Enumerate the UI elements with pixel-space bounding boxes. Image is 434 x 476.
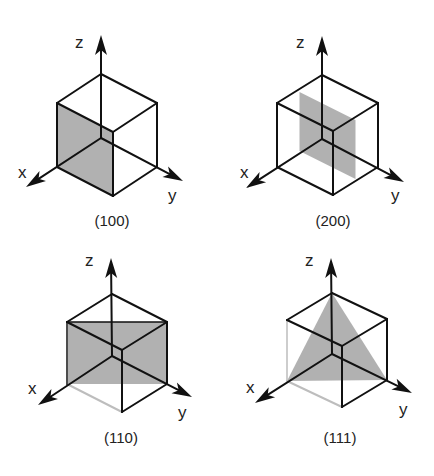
diagram-canvas: xyz(100)xyz(200)xyz(110)xyz(111) (0, 0, 434, 476)
x-axis-arrowhead-icon (38, 389, 58, 405)
y-axis-label: y (178, 403, 187, 422)
panel-caption: (110) (104, 429, 138, 446)
panel-110: xyz(110) (28, 251, 192, 446)
x-axis-label: x (240, 163, 249, 182)
x-axis-label: x (18, 163, 27, 182)
x-axis-arrowhead-icon (246, 172, 266, 188)
cube-edge (287, 381, 342, 407)
cube-edge (57, 74, 101, 103)
z-axis-line (331, 273, 332, 354)
z-axis-label: z (85, 251, 94, 270)
miller-plane-111 (287, 293, 387, 381)
x-axis-arrowhead-icon (255, 387, 275, 403)
panel-111: xyz(111) (246, 251, 412, 446)
y-axis-label: y (168, 186, 177, 205)
cube-edge (122, 384, 167, 412)
panel-caption: (200) (315, 212, 350, 229)
cube-edge (277, 167, 333, 195)
cube-edge (113, 167, 157, 196)
panel-200: xyz(200) (240, 33, 404, 229)
cube-edge (67, 294, 112, 322)
cube-edge (342, 380, 387, 407)
panel-100: xyz(100) (18, 33, 183, 229)
cube-edge (112, 294, 167, 322)
y-axis-arrowhead-icon (391, 379, 412, 393)
y-axis-label: y (391, 186, 400, 205)
y-axis-arrowhead-icon (163, 166, 184, 181)
y-axis-arrowhead-icon (172, 383, 193, 398)
cube-edge (67, 384, 122, 412)
x-axis-label: x (28, 379, 37, 398)
z-axis-label: z (296, 33, 305, 52)
z-axis-label: z (305, 251, 314, 270)
panel-caption: (111) (324, 429, 357, 446)
cube-edge (101, 74, 157, 103)
panel-caption: (100) (94, 212, 129, 229)
cube-edge (113, 103, 157, 132)
x-axis-label: x (246, 378, 255, 397)
miller-plane-200 (300, 92, 356, 179)
z-axis-line (111, 273, 112, 356)
cube-edge (322, 75, 378, 103)
miller-indices-figure: xyz(100)xyz(200)xyz(110)xyz(111) (100) (… (0, 0, 434, 476)
y-axis-label: y (399, 400, 408, 419)
x-axis-arrowhead-icon (26, 171, 46, 187)
z-axis-label: z (75, 33, 84, 52)
y-axis-arrowhead-icon (384, 167, 405, 182)
